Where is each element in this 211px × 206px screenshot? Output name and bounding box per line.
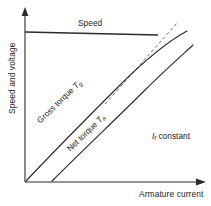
y-axis-arrow-icon [22, 7, 29, 16]
dc-motor-characteristics-figure: Speed and voltage Armature current Speed… [0, 0, 211, 206]
plot-canvas [0, 0, 211, 206]
speed-curve [25, 32, 158, 35]
x-axis-arrow-icon [196, 178, 206, 185]
field-current-condition-label: If constant [152, 132, 190, 142]
speed-curve-label: Speed [78, 19, 102, 27]
x-axis-label: Armature current [139, 190, 203, 198]
y-axis-label: Speed and voltage [8, 35, 16, 121]
field-condition-text: constant [156, 131, 190, 141]
net-torque-curve [52, 45, 193, 181]
